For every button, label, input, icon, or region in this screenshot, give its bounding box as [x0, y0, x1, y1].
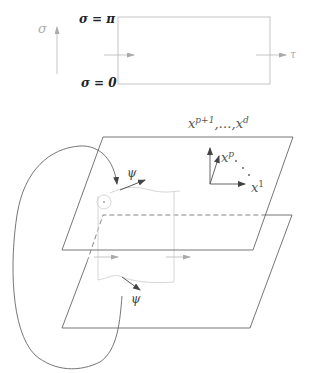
psi-lower-label: ψ	[131, 292, 141, 306]
lower-brane-outline	[62, 215, 292, 328]
ellipsis-dot	[248, 174, 250, 176]
open-string-strip	[94, 187, 190, 282]
sigma-pi-label: σ = π	[79, 12, 115, 26]
lower-brane-hidden-edge	[87, 215, 265, 262]
transverse-coords-label: xp+1,…,xd	[188, 115, 249, 131]
ellipsis-dot	[242, 167, 244, 169]
diagram-canvas: σ τ σ = π σ = 0 xp x1 xp+1,…,xd	[0, 0, 310, 373]
lower-brane	[62, 215, 292, 328]
axis-xp-label: xp	[221, 149, 234, 165]
psi-lower-arrow	[122, 277, 140, 290]
worldsheet-strip: σ τ σ = π σ = 0	[38, 12, 297, 90]
upper-brane-outline	[62, 137, 293, 250]
brane-coordinate-axes: xp x1 xp+1,…,xd	[188, 115, 264, 195]
worldsheet-rectangle	[118, 17, 270, 84]
sigma-zero-label: σ = 0	[81, 76, 117, 90]
axis-x1-label: x1	[251, 179, 264, 195]
tau-axis-label: τ	[290, 48, 297, 61]
vertex-dot	[103, 201, 105, 203]
psi-upper-label: ψ	[127, 166, 137, 180]
ellipsis-dot	[235, 160, 237, 162]
axis-xp-arrow	[210, 156, 219, 184]
strip-bottom-wave	[98, 275, 174, 282]
upper-brane	[62, 137, 293, 250]
sigma-axis-label: σ	[38, 21, 48, 36]
